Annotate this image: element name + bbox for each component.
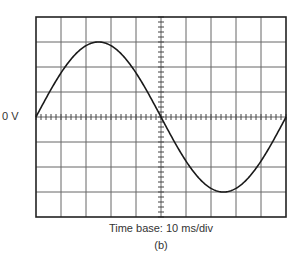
figure-caption: (b) [0, 239, 301, 251]
zero-volt-label: 0 V [2, 110, 19, 122]
timebase-label: Time base: 10 ms/div [0, 222, 301, 234]
